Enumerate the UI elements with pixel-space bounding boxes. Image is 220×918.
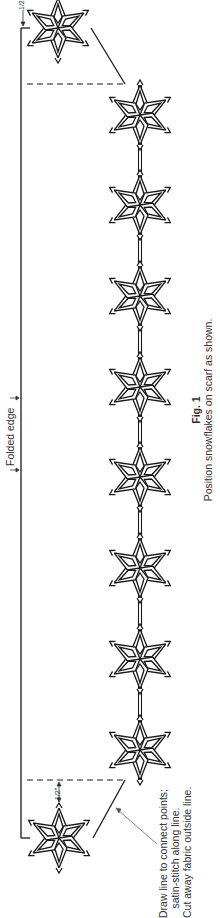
figure-caption: Fig. 1 Position snowflakes on scarf as s… [190,300,214,520]
instructions-note: Draw line to connect points; satin-stitc… [157,798,193,918]
corner-snowflakes [24,0,94,873]
half-inch-arrows [21,10,61,802]
outline [21,28,125,838]
pointer-arrow [116,808,157,844]
figure-label: Fig. 1 [190,300,202,520]
half-inch-label-top: 1/2" [18,0,25,10]
figure-caption-text: Position snowflakes on scarf as shown. [202,300,214,520]
folded-edge-label: Folded edge [4,408,16,466]
scarf-diagram [0,0,220,918]
half-inch-label-bottom: 1/2" [54,788,61,800]
instruction-line-3: Cut away fabric outside line. [181,798,193,918]
spine-snowflakes [106,80,175,785]
instruction-line-2: satin-stitch along line. [169,798,181,918]
connect-line-top [91,28,125,84]
instruction-line-1: Draw line to connect points; [157,798,169,918]
